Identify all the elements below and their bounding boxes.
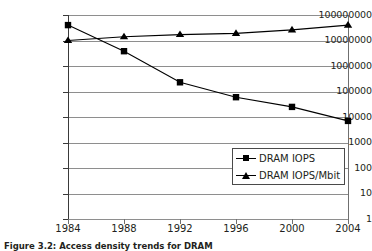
square-marker-icon — [289, 104, 295, 110]
square-marker-icon — [121, 48, 127, 54]
square-marker-icon — [345, 118, 351, 124]
legend-item-dram-iops-mbit: DRAM IOPS/Mbit — [233, 167, 346, 184]
triangle-marker-icon — [64, 36, 72, 43]
square-marker-icon — [233, 152, 259, 166]
chart-legend: DRAM IOPS DRAM IOPS/Mbit — [232, 148, 345, 185]
square-marker-icon — [233, 94, 239, 100]
legend-label: DRAM IOPS — [259, 153, 315, 164]
triangle-marker-icon — [233, 169, 259, 183]
series-line — [68, 25, 348, 121]
series-line — [68, 25, 348, 40]
triangle-marker-icon — [120, 33, 128, 40]
triangle-marker-icon — [176, 31, 184, 38]
triangle-marker-icon — [344, 21, 352, 28]
figure-caption: Figure 3.2: Access density trends for DR… — [4, 242, 372, 251]
series-dram-iops — [65, 22, 351, 124]
series-layer — [0, 0, 372, 251]
legend-label: DRAM IOPS/Mbit — [259, 170, 340, 181]
series-dram-iops-mbit — [64, 21, 352, 43]
legend-item-dram-iops: DRAM IOPS — [233, 150, 346, 167]
square-marker-icon — [65, 22, 71, 28]
square-marker-icon — [177, 79, 183, 85]
triangle-marker-icon — [232, 29, 240, 36]
chart-figure: 1000000001000000010000001000001000010001… — [0, 0, 372, 251]
